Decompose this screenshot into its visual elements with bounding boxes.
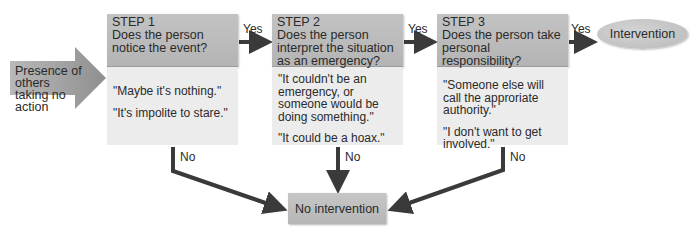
step-2-quote-2: "It could be a hoax."	[278, 132, 397, 145]
step-2-header: STEP 2 Does the person interpret the sit…	[272, 14, 403, 67]
step-3-quote-1: "Someone else will call the approriate a…	[443, 79, 562, 117]
step-3-header: STEP 3 Does the person take personal res…	[437, 14, 568, 67]
step-2: STEP 2 Does the person interpret the sit…	[272, 14, 403, 145]
step-3-quote-2: "I don't want to get involved."	[443, 126, 562, 151]
no-intervention-outcome: No intervention	[288, 193, 386, 224]
step-1-header: STEP 1 Does the person notice the event?	[107, 14, 238, 67]
yes-label-3: Yes	[571, 22, 591, 36]
step-1-quote-1: "Maybe it's nothing."	[113, 85, 232, 98]
step-3: STEP 3 Does the person take personal res…	[437, 14, 568, 145]
step-1-question: Does the person notice the event?	[112, 29, 233, 55]
yes-label-1: Yes	[243, 22, 263, 36]
no-label-3: No	[510, 150, 525, 164]
yes-label-2: Yes	[408, 22, 428, 36]
start-label: Presence of others taking no action	[15, 65, 85, 113]
step-1: STEP 1 Does the person notice the event?…	[107, 14, 238, 145]
step-2-body: "It couldn't be an emergency, or someone…	[272, 67, 403, 145]
no-label-2: No	[345, 150, 360, 164]
step-3-question: Does the person take personal responsibi…	[442, 29, 563, 68]
step-3-body: "Someone else will call the approriate a…	[437, 67, 568, 145]
intervention-outcome: Intervention	[597, 19, 688, 49]
step-2-quote-1: "It couldn't be an emergency, or someone…	[278, 73, 397, 123]
step-1-body: "Maybe it's nothing." "It's impolite to …	[107, 67, 238, 145]
no-arrow-3	[395, 147, 503, 208]
no-label-1: No	[180, 150, 195, 164]
step-2-question: Does the person interpret the situation …	[277, 29, 398, 68]
step-1-quote-2: "It's impolite to stare."	[113, 107, 232, 120]
